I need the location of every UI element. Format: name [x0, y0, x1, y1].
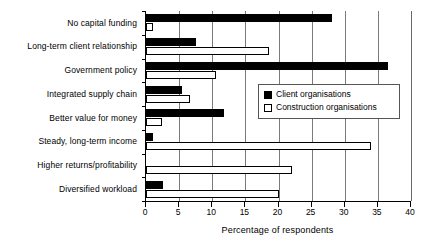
x-tick-label: 25: [306, 208, 315, 217]
bar-group: [146, 130, 411, 154]
filled-square-icon: [264, 91, 272, 99]
x-tick-label: 0: [143, 208, 148, 217]
category-label: Long-term client relationship: [0, 35, 141, 59]
bar-client: [146, 181, 163, 189]
bar-group: [146, 35, 411, 59]
horizontal-bar-chart: No capital funding Long-term client rela…: [0, 0, 430, 251]
category-label: Steady, long-term income: [0, 130, 141, 154]
bar-client: [146, 62, 388, 70]
chart-legend: Client organisations Construction organi…: [258, 84, 400, 119]
category-label: Better value for money: [0, 106, 141, 130]
bar-client: [146, 14, 332, 22]
bar-client: [146, 133, 153, 141]
bar-construction: [146, 47, 269, 55]
bar-group: [146, 154, 411, 178]
bar-construction: [146, 95, 190, 103]
bar-construction: [146, 190, 279, 198]
bar-group: [146, 11, 411, 35]
bar-construction: [146, 142, 371, 150]
category-label: Integrated supply chain: [0, 82, 141, 106]
legend-label: Client organisations: [276, 90, 351, 99]
category-label: Higher returns/profitability: [0, 154, 141, 178]
bar-group: [146, 59, 411, 83]
bar-construction: [146, 166, 292, 174]
bar-construction: [146, 118, 162, 126]
x-tick-label: 30: [339, 208, 348, 217]
legend-item-construction: Construction organisations: [264, 101, 394, 114]
bar-client: [146, 86, 182, 94]
x-tick-label: 5: [176, 208, 181, 217]
bar-client: [146, 109, 224, 117]
bar-construction: [146, 23, 153, 31]
x-tick-label: 20: [273, 208, 282, 217]
legend-item-client: Client organisations: [264, 88, 394, 101]
value-axis-tick-labels: 0510152025303540: [145, 208, 410, 220]
x-tick-label: 35: [372, 208, 381, 217]
category-label: No capital funding: [0, 11, 141, 35]
category-axis-labels: No capital funding Long-term client rela…: [0, 11, 141, 201]
category-label: Government policy: [0, 59, 141, 83]
x-tick-label: 40: [405, 208, 414, 217]
bar-construction: [146, 71, 216, 79]
gridline: [411, 11, 412, 201]
bar-client: [146, 38, 196, 46]
x-tick-label: 10: [207, 208, 216, 217]
value-axis-title: Percentage of respondents: [145, 225, 410, 235]
bar-group: [146, 177, 411, 201]
x-tick-label: 15: [240, 208, 249, 217]
category-label: Diversified workload: [0, 177, 141, 201]
hollow-square-icon: [264, 104, 272, 112]
legend-label: Construction organisations: [276, 103, 377, 112]
